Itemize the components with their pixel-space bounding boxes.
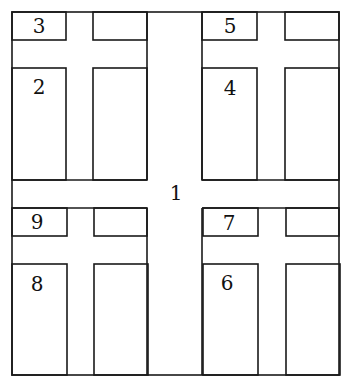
label-5: 5 — [224, 14, 237, 38]
label-1: 1 — [170, 181, 183, 205]
label-8: 8 — [31, 272, 44, 296]
label-9: 9 — [31, 210, 44, 234]
room-small-unlabeled — [285, 12, 339, 40]
room-small-unlabeled — [93, 12, 147, 40]
room-large-unlabeled — [286, 264, 340, 375]
room-diagram: 3 2 5 4 1 9 8 7 6 — [0, 0, 350, 385]
room-large-unlabeled — [94, 264, 148, 375]
label-2: 2 — [33, 75, 46, 99]
label-3: 3 — [33, 14, 46, 38]
label-6: 6 — [221, 271, 234, 295]
room-small-unlabeled — [286, 208, 339, 236]
room-large-unlabeled — [93, 68, 147, 180]
quadrant-top-right — [202, 12, 339, 180]
room-large-unlabeled — [285, 68, 339, 180]
label-7: 7 — [223, 211, 236, 235]
label-4: 4 — [224, 76, 237, 100]
room-small-unlabeled — [94, 208, 147, 236]
